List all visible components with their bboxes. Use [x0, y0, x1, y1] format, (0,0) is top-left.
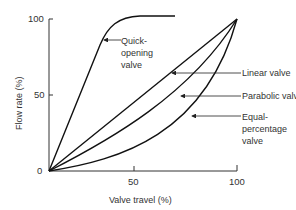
label-quick-2: opening	[121, 48, 153, 58]
label-equal-2: percentage	[242, 124, 287, 134]
x-axis-title: Valve travel (%)	[109, 195, 172, 205]
label-equal-1: Equal-	[242, 112, 268, 122]
label-quick-1: Quick-	[121, 36, 147, 46]
y-tick-label-100: 100	[28, 13, 44, 24]
y-tick-label-50: 50	[34, 89, 45, 100]
y-tick-label-0: 0	[37, 165, 42, 176]
label-linear: Linear valve	[242, 68, 291, 78]
y-axis-title: Flow rate (%)	[14, 76, 24, 130]
label-quick-3: valve	[121, 60, 142, 70]
label-parabolic: Parabolic valve	[242, 91, 296, 101]
quick-opening-curve	[49, 16, 175, 171]
x-tick-label-50: 50	[128, 176, 139, 187]
x-tick-label-100: 100	[229, 176, 245, 187]
valve-characteristics-chart: 100 50 0 50 100 Valve travel (%) Flow ra…	[0, 0, 296, 210]
label-equal-3: valve	[242, 136, 263, 146]
